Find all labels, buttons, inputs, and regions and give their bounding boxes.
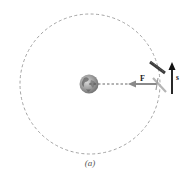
satellite-icon — [150, 62, 166, 92]
figure-caption: (a) — [0, 158, 180, 168]
displacement-label: s — [176, 73, 179, 82]
force-label: F — [140, 74, 145, 83]
orbit-diagram: F s (a) — [0, 0, 188, 183]
diagram-canvas: F s — [0, 0, 188, 183]
displacement-arrow — [169, 62, 176, 94]
